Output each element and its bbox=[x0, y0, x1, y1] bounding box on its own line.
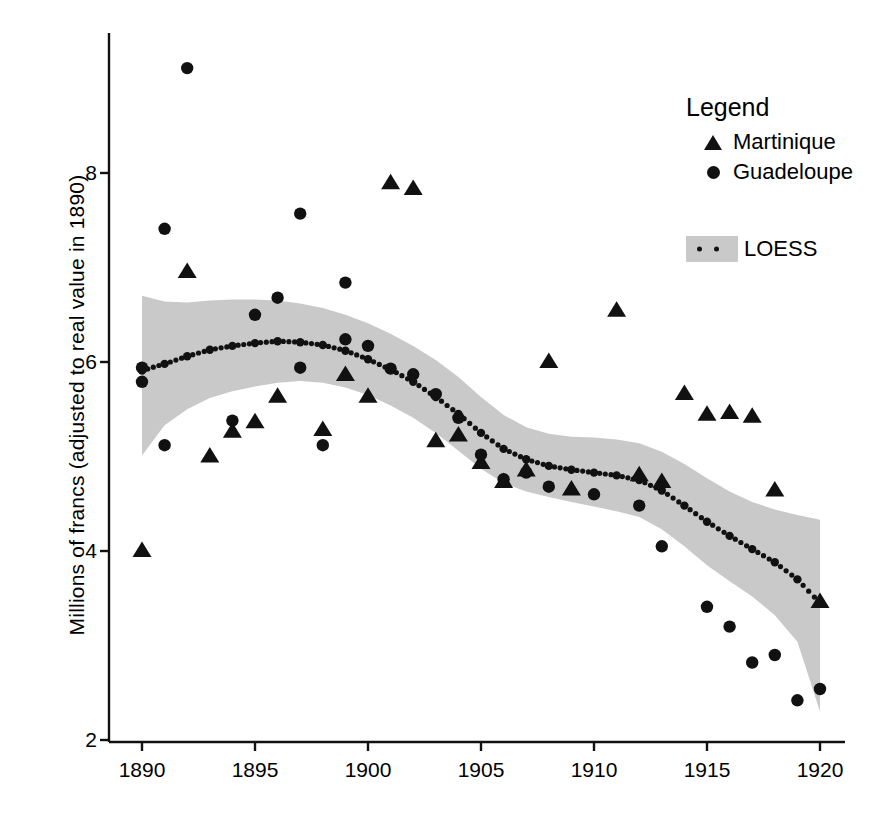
x-tick-label: 1905 bbox=[458, 758, 505, 782]
y-tick-label: 2 bbox=[57, 728, 97, 752]
legend-item-guadeloupe[interactable]: Guadeloupe bbox=[702, 157, 853, 187]
legend-item-martinique[interactable]: Martinique bbox=[702, 127, 853, 157]
chart-figure: Millions of francs (adjusted to real val… bbox=[0, 0, 892, 831]
legend-item-label: LOESS bbox=[744, 238, 817, 260]
loess-band-swatch bbox=[686, 236, 738, 262]
legend-item-label: Guadeloupe bbox=[733, 161, 853, 183]
x-tick-label: 1915 bbox=[684, 758, 731, 782]
x-tick-label: 1910 bbox=[571, 758, 618, 782]
y-tick-label: 4 bbox=[57, 539, 97, 563]
legend-item-label: Martinique bbox=[733, 131, 836, 153]
circle-icon bbox=[702, 166, 724, 179]
y-tick-label: 8 bbox=[57, 161, 97, 185]
legend-item-loess[interactable]: LOESS bbox=[686, 234, 853, 264]
legend-box: Legend Martinique Guadeloupe LOESS bbox=[686, 93, 853, 264]
x-tick-label: 1895 bbox=[232, 758, 279, 782]
triangle-icon bbox=[702, 135, 724, 150]
loess-confidence-band bbox=[142, 296, 820, 712]
x-tick-label: 1920 bbox=[797, 758, 844, 782]
x-tick-label: 1900 bbox=[345, 758, 392, 782]
x-tick-label: 1890 bbox=[119, 758, 166, 782]
y-tick-label: 6 bbox=[57, 350, 97, 374]
legend-title: Legend bbox=[686, 93, 853, 122]
